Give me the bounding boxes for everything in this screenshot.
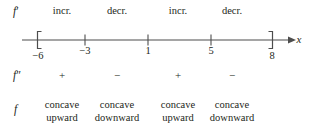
- second-derivative-sign-2: −: [114, 70, 120, 81]
- second-derivative-sign-1: +: [59, 70, 65, 81]
- concavity-cell-1-line1: concave: [45, 99, 79, 112]
- tick-label-1: 1: [145, 46, 150, 57]
- tick-label-minus6: −6: [32, 51, 43, 62]
- concavity-cell-3-line2: upward: [161, 112, 195, 125]
- row-label-f-double-prime-mark: ″: [16, 69, 21, 81]
- monotonicity-cell-2: decr.: [107, 6, 127, 17]
- concavity-cell-1: concave upward: [45, 99, 79, 124]
- sign-chart-diagram: f′ incr. decr. incr. decr. −6 −3 1 5 8 x…: [0, 0, 311, 131]
- row-label-f: f: [14, 104, 17, 116]
- row-label-f-prime-mark: ′: [16, 5, 19, 17]
- monotonicity-cell-3: incr.: [169, 6, 187, 17]
- tick-label-8: 8: [269, 51, 274, 62]
- monotonicity-cell-4: decr.: [222, 6, 242, 17]
- row-label-f-prime: f′: [13, 6, 19, 18]
- number-line: [0, 24, 311, 64]
- axis-variable-label: x: [297, 34, 302, 45]
- concavity-cell-3-line1: concave: [161, 99, 195, 112]
- concavity-cell-2-line2: downward: [95, 112, 139, 125]
- tick-label-5: 5: [208, 46, 213, 57]
- row-label-f-base: f: [14, 103, 17, 115]
- tick-label-minus3: −3: [79, 46, 90, 57]
- concavity-cell-4: concave downward: [210, 99, 254, 124]
- concavity-cell-3: concave upward: [161, 99, 195, 124]
- second-derivative-sign-3: +: [175, 70, 181, 81]
- axis-arrowhead: [288, 36, 296, 43]
- concavity-cell-2: concave downward: [95, 99, 139, 124]
- concavity-cell-1-line2: upward: [45, 112, 79, 125]
- second-derivative-sign-4: −: [229, 70, 235, 81]
- concavity-cell-2-line1: concave: [95, 99, 139, 112]
- concavity-cell-4-line1: concave: [210, 99, 254, 112]
- monotonicity-cell-1: incr.: [53, 6, 71, 17]
- row-label-f-double-prime: f″: [13, 70, 21, 82]
- concavity-cell-4-line2: downward: [210, 112, 254, 125]
